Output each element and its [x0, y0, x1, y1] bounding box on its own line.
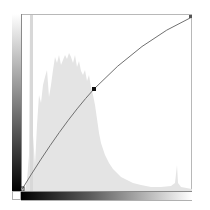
- curve-plot-area[interactable]: [21, 15, 192, 191]
- input-gradient-bar: [21, 191, 192, 201]
- histogram: [21, 15, 192, 191]
- curve-point-white[interactable]: [189, 15, 192, 18]
- curve-point-mid[interactable]: [92, 87, 96, 91]
- curves-widget: [0, 0, 210, 210]
- gradient-corner: [12, 191, 21, 200]
- histogram-spike: [30, 15, 33, 191]
